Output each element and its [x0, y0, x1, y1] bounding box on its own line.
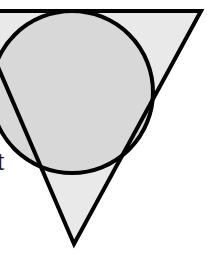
- cut-off-label: t: [0, 148, 5, 175]
- figure-drawing: [0, 0, 207, 267]
- geometry-figure: t: [0, 0, 207, 267]
